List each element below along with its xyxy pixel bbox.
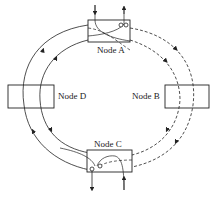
port-icon xyxy=(124,23,128,27)
port-icon xyxy=(98,164,102,168)
arrow-icon xyxy=(176,140,177,142)
arrow-icon xyxy=(50,128,51,130)
node-d xyxy=(8,85,54,108)
node-c xyxy=(60,148,132,190)
ring-network-diagram: Node A Node D Node B Node C xyxy=(0,0,211,201)
arrow-icon xyxy=(167,128,168,130)
node-b-label: Node B xyxy=(132,91,160,101)
arrow-icon xyxy=(55,58,56,60)
node-b xyxy=(165,85,209,108)
node-d-label: Node D xyxy=(58,91,87,101)
node-a xyxy=(88,5,130,50)
port-icon xyxy=(119,23,123,27)
port-icon xyxy=(90,167,94,171)
node-a-label: Node A xyxy=(97,45,125,55)
node-c-label: Node C xyxy=(94,139,122,149)
arrow-icon xyxy=(42,50,43,53)
